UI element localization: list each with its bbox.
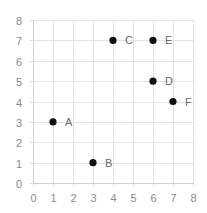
point-label: D — [165, 75, 173, 87]
data-point-a: A — [49, 116, 73, 128]
x-tick-label: 6 — [150, 192, 156, 204]
point-label: C — [125, 34, 133, 46]
x-tick-label: 0 — [30, 192, 36, 204]
data-points: ABCDEF — [49, 34, 192, 168]
point-label: B — [105, 157, 112, 169]
point-marker-icon — [49, 118, 56, 125]
point-label: A — [65, 116, 73, 128]
point-marker-icon — [149, 37, 156, 44]
point-label: F — [185, 96, 192, 108]
x-tick-label: 3 — [90, 192, 96, 204]
point-marker-icon — [109, 37, 116, 44]
y-tick-label: 7 — [16, 35, 22, 47]
point-label: E — [165, 34, 172, 46]
x-tick-label: 4 — [110, 192, 116, 204]
x-tick-label: 2 — [70, 192, 76, 204]
y-tick-label: 3 — [16, 117, 22, 129]
x-tick-label: 1 — [50, 192, 56, 204]
x-axis-ticks: 012345678 — [30, 192, 196, 204]
y-tick-label: 8 — [16, 15, 22, 27]
y-tick-label: 4 — [16, 97, 22, 109]
y-tick-label: 0 — [16, 178, 22, 190]
data-point-b: B — [89, 157, 112, 169]
y-axis-ticks: 012345678 — [16, 15, 22, 190]
data-point-f: F — [169, 96, 192, 108]
y-tick-label: 5 — [16, 76, 22, 88]
y-tick-label: 6 — [16, 56, 22, 68]
x-tick-label: 8 — [190, 192, 196, 204]
scatter-chart: 012345678 012345678 ABCDEF — [0, 0, 207, 213]
point-marker-icon — [89, 159, 96, 166]
x-tick-label: 7 — [170, 192, 176, 204]
y-tick-label: 1 — [16, 158, 22, 170]
x-tick-label: 5 — [130, 192, 136, 204]
point-marker-icon — [169, 98, 176, 105]
point-marker-icon — [149, 78, 156, 85]
y-tick-label: 2 — [16, 137, 22, 149]
